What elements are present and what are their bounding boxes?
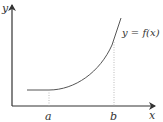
curve-label: y = f(x) <box>121 27 160 38</box>
marker-a-label: a <box>45 110 52 122</box>
y-axis-label: y <box>1 2 9 15</box>
function-graph: y x y = f(x) a b <box>0 0 163 122</box>
curve-f <box>27 18 121 90</box>
x-axis-label: x <box>149 109 156 122</box>
marker-b-label: b <box>110 110 117 122</box>
